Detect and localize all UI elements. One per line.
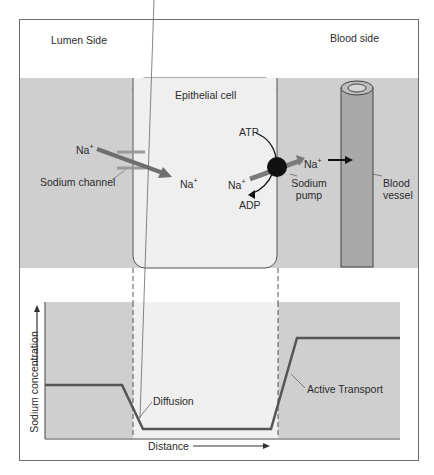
active-transport-annotation: Active Transport bbox=[307, 383, 383, 395]
chart-lumen-region bbox=[45, 302, 133, 438]
sodium-pump-label: Sodiumpump bbox=[289, 177, 329, 201]
epithelial-cell bbox=[133, 78, 277, 268]
sodium-channel-label: Sodium channel bbox=[40, 176, 115, 188]
epithelial-cell-label: Epithelial cell bbox=[175, 89, 236, 101]
lumen-side-label: Lumen Side bbox=[51, 34, 107, 46]
sodium-pump-icon bbox=[267, 157, 287, 177]
sodium-ion-inside-label: Na+ bbox=[180, 175, 198, 190]
chart-cell-region bbox=[133, 302, 278, 438]
diagram-canvas bbox=[0, 0, 434, 475]
blood-vessel-icon bbox=[341, 88, 373, 267]
sodium-ion-pump-in-label: Na+ bbox=[228, 176, 246, 191]
blood-side-label: Blood side bbox=[330, 32, 379, 44]
chart-blood-region bbox=[278, 302, 400, 438]
x-axis-label: Distance bbox=[148, 440, 189, 452]
y-axis-label: Sodium concentration bbox=[28, 327, 40, 437]
atp-label: ATP bbox=[239, 126, 259, 138]
blood-vessel-label: Bloodvessel bbox=[383, 177, 413, 201]
diffusion-annotation: Diffusion bbox=[153, 395, 194, 407]
adp-label: ADP bbox=[239, 199, 261, 211]
sodium-ion-outside-label: Na+ bbox=[76, 141, 94, 156]
sodium-ion-pump-out-label: Na+ bbox=[304, 155, 322, 170]
